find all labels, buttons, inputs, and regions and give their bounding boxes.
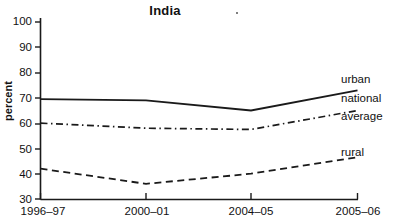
series-line-urban [41,90,358,110]
x-axis-ticks [41,193,358,200]
chart-container: India percent 100 90 80 70 60 50 40 30 1… [0,0,401,224]
y-axis-ticks [35,22,41,199]
series-line-rural [41,157,358,184]
series-line-national-average [41,111,358,130]
plot-area [0,0,401,224]
